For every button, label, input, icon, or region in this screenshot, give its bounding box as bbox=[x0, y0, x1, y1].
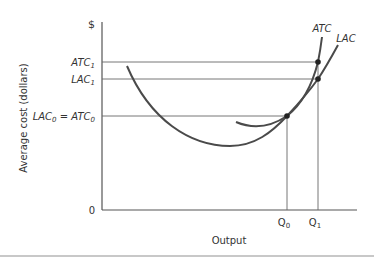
cost-curves-chart: $ 0 ATC1 LAC1 LAC0 = ATC0 Average cost (… bbox=[0, 0, 374, 259]
atc-curve bbox=[236, 37, 322, 126]
origin-label: 0 bbox=[89, 205, 95, 216]
atc1-point bbox=[315, 59, 321, 65]
x-axis-title: Output bbox=[212, 235, 247, 246]
tangency-point bbox=[284, 113, 290, 119]
dollar-label: $ bbox=[88, 18, 95, 31]
lac-curve bbox=[127, 45, 338, 146]
lac1-point bbox=[315, 76, 321, 82]
lac1-label: LAC1 bbox=[71, 74, 95, 87]
lac-curve-label: LAC bbox=[336, 33, 355, 44]
bottom-divider bbox=[0, 255, 374, 257]
atc1-label: ATC1 bbox=[70, 57, 95, 70]
y-axis-title: Average cost (dollars) bbox=[18, 63, 29, 173]
q0-label: Q0 bbox=[278, 217, 290, 230]
q1-label: Q1 bbox=[309, 217, 321, 230]
lac0-atc0-label: LAC0 = ATC0 bbox=[33, 111, 96, 124]
atc-curve-label: ATC bbox=[311, 23, 331, 34]
